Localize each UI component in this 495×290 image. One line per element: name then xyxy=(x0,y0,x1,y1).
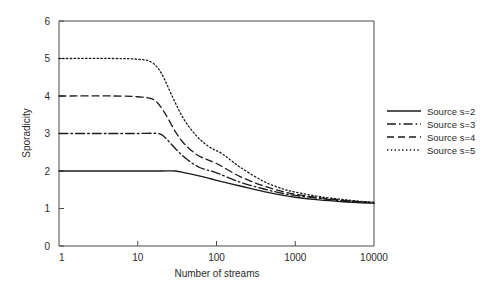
legend-label: Source s=4 xyxy=(427,132,475,143)
y-tick-label: 6 xyxy=(44,16,50,27)
x-tick-label: 10 xyxy=(132,252,144,263)
y-tick-label: 5 xyxy=(44,53,50,64)
legend-label: Source s=3 xyxy=(427,119,475,130)
y-tick-label: 2 xyxy=(44,166,50,177)
y-tick-label: 1 xyxy=(44,203,50,214)
x-axis-title: Number of streams xyxy=(174,268,259,279)
sporadicity-line-chart: 0123456 110100100010000 Number of stream… xyxy=(0,0,495,290)
x-tick-label: 10000 xyxy=(360,252,388,263)
legend-label: Source s=5 xyxy=(427,145,475,156)
y-tick-label: 3 xyxy=(44,128,50,139)
y-tick-label: 4 xyxy=(44,91,50,102)
y-tick-label: 0 xyxy=(44,241,50,252)
chart-figure: 0123456 110100100010000 Number of stream… xyxy=(0,0,495,290)
y-axis-title: Sporadicity xyxy=(21,108,32,157)
legend-label: Source s=2 xyxy=(427,106,475,117)
x-tick-label: 100 xyxy=(208,252,225,263)
x-tick-label: 1 xyxy=(59,252,65,263)
x-tick-label: 1000 xyxy=(284,252,307,263)
